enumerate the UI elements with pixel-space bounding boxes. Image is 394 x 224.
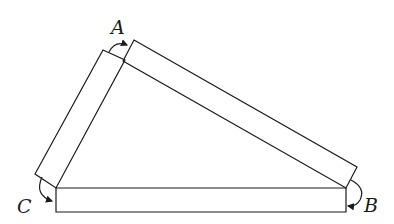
hypotenuse-bar — [123, 40, 357, 188]
vertex-label-b: B — [363, 194, 378, 216]
left-bar — [35, 50, 125, 188]
bottom-bar — [56, 188, 346, 212]
vertex-label-a: A — [109, 16, 125, 38]
rotation-arrow-b-icon — [348, 180, 362, 206]
rotation-arrow-a-icon — [109, 44, 127, 52]
vertex-label-c: C — [17, 195, 32, 217]
triangle-bars-diagram: A C B — [0, 0, 394, 224]
